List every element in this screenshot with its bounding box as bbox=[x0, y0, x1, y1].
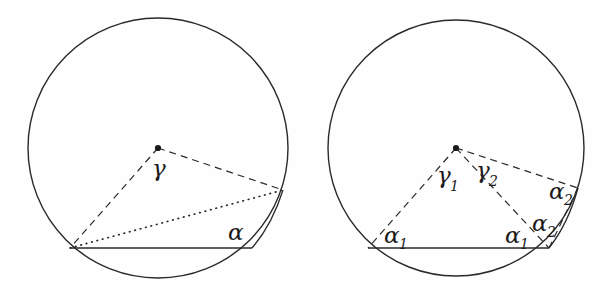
label-gamma-2: γ 2 bbox=[476, 157, 498, 189]
label-alpha-1-left-subscript: 1 bbox=[399, 236, 408, 252]
left-radius-to-chord-left bbox=[70, 148, 158, 248]
label-gamma-1-base: γ bbox=[437, 162, 451, 188]
right-panel: γ 1 γ 2 α 1 α 1 α 2 bbox=[328, 20, 584, 276]
label-alpha-2-lower-subscript: 2 bbox=[546, 224, 556, 240]
label-alpha-2-upper: α 2 bbox=[549, 178, 573, 208]
label-alpha-2-lower: α 2 bbox=[532, 210, 556, 240]
label-alpha-2-lower-base: α bbox=[532, 210, 548, 236]
label-alpha-2-upper-subscript: 2 bbox=[563, 192, 573, 208]
label-alpha-2-upper-base: α bbox=[549, 178, 565, 204]
left-panel: γ α bbox=[28, 18, 288, 278]
label-alpha-1-left: α 1 bbox=[384, 222, 408, 252]
label-gamma-1: γ 1 bbox=[437, 162, 459, 194]
label-alpha-1-left-base: α bbox=[384, 222, 400, 248]
left-radius-to-arc-point bbox=[158, 148, 283, 190]
left-center-dot bbox=[155, 145, 161, 151]
label-gamma-2-base: γ bbox=[476, 157, 490, 183]
geometry-figure: γ α γ 1 bbox=[0, 0, 613, 307]
label-alpha-1-right-subscript: 1 bbox=[520, 236, 529, 252]
label-alpha: α bbox=[228, 219, 244, 245]
label-gamma-1-subscript: 1 bbox=[450, 178, 459, 194]
label-gamma-2-subscript: 2 bbox=[488, 173, 498, 189]
label-alpha-1-right: α 1 bbox=[505, 222, 529, 252]
right-center-dot bbox=[453, 145, 459, 151]
label-alpha-1-right-base: α bbox=[505, 222, 521, 248]
figure-root: γ α γ 1 bbox=[0, 0, 613, 307]
label-gamma: γ bbox=[152, 155, 166, 181]
